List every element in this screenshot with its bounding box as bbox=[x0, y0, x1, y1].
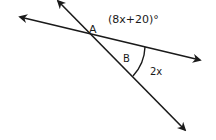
angle-arc-b bbox=[133, 47, 145, 76]
angle-label-b: B bbox=[123, 53, 130, 64]
angle-label-top: (8x+20)° bbox=[108, 13, 159, 26]
point-label-a: A bbox=[89, 23, 97, 36]
angle-diagram: A (8x+20)° B 2x bbox=[0, 0, 216, 140]
angle-label-2x: 2x bbox=[150, 66, 162, 77]
